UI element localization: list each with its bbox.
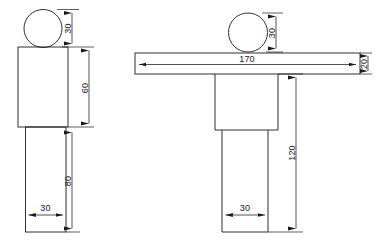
dimension-left-leg-80-text: 80 (63, 176, 73, 186)
right-stem-upper (215, 74, 278, 130)
dimension-right-stem-120: 120 (287, 78, 297, 229)
dimension-right-stem-120-text: 120 (287, 145, 297, 161)
left-head-circle (24, 10, 62, 48)
dimension-right-flange-20: 20 (359, 56, 369, 71)
dimension-left-leg-80: 80 (63, 133, 73, 229)
left-body-rectangle (18, 47, 68, 127)
left-leg-rectangle (26, 127, 67, 232)
dimension-left-head-30: 30 (63, 13, 73, 44)
right-stem-lower (222, 130, 268, 232)
dimension-right-flange-20-text: 20 (359, 59, 369, 69)
dimension-left-leg-width-30: 30 (29, 203, 64, 215)
dimension-left-body-60-text: 60 (80, 83, 90, 93)
right-figure: 30 170 20 120 30 (135, 13, 372, 232)
dimension-right-head-30: 30 (267, 17, 277, 49)
technical-drawing-canvas: 30 60 80 30 (0, 0, 377, 246)
left-figure: 30 60 80 30 (18, 10, 94, 233)
dimension-right-flange-170-text: 170 (239, 54, 255, 64)
right-head-circle (229, 13, 268, 52)
dimension-right-head-30-text: 30 (267, 28, 277, 38)
dimension-right-flange-170: 170 (139, 54, 356, 65)
dimension-right-stem-width-30: 30 (226, 203, 266, 215)
dimension-left-body-60: 60 (80, 51, 90, 124)
dimension-left-head-30-text: 30 (63, 23, 73, 33)
drawing-svg: 30 60 80 30 (0, 0, 377, 246)
dimension-right-stem-width-30-text: 30 (240, 203, 250, 213)
dimension-left-leg-width-30-text: 30 (40, 203, 50, 213)
